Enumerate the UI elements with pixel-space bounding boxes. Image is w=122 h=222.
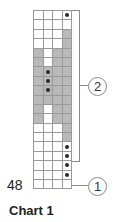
chart-cell xyxy=(53,161,63,170)
dot-icon xyxy=(46,88,50,92)
dot-icon xyxy=(46,79,50,83)
chart-cell xyxy=(63,86,73,95)
chart-cell xyxy=(63,11,73,20)
chart-cell xyxy=(53,49,63,58)
row-number-label: 48 xyxy=(7,177,23,193)
chart-cell xyxy=(34,39,44,48)
chart-cell xyxy=(34,133,44,142)
chart-cell xyxy=(53,180,63,189)
chart-cell xyxy=(53,152,63,161)
chart-cell xyxy=(44,49,54,58)
chart-title: Chart 1 xyxy=(9,203,54,218)
chart-cell xyxy=(44,11,54,20)
chart-cell xyxy=(63,124,73,133)
chart-cell xyxy=(44,180,54,189)
chart-cell xyxy=(44,171,54,180)
callout-1-leader xyxy=(72,185,88,186)
chart-cell xyxy=(44,96,54,105)
chart-cell xyxy=(53,114,63,123)
chart-cell xyxy=(44,105,54,114)
dot-icon xyxy=(65,145,69,149)
chart-cell xyxy=(34,152,44,161)
chart-cell xyxy=(53,86,63,95)
chart-cell xyxy=(34,58,44,67)
chart-cell xyxy=(53,142,63,151)
chart-cell xyxy=(34,86,44,95)
chart-cell xyxy=(44,142,54,151)
chart-cell xyxy=(63,39,73,48)
chart-cell xyxy=(63,58,73,67)
chart-cell xyxy=(44,77,54,86)
chart-cell xyxy=(53,124,63,133)
chart-cell xyxy=(53,105,63,114)
chart-cell xyxy=(63,152,73,161)
chart-cell xyxy=(53,11,63,20)
callout-1-circle: 1 xyxy=(88,177,107,196)
chart-cell xyxy=(34,49,44,58)
chart-cell xyxy=(34,11,44,20)
dot-icon xyxy=(65,13,69,17)
chart-cell xyxy=(53,39,63,48)
chart-cell xyxy=(63,105,73,114)
chart-cell xyxy=(34,96,44,105)
chart-cell xyxy=(44,39,54,48)
chart-cell xyxy=(34,105,44,114)
chart-cell xyxy=(34,30,44,39)
callout-2-label: 2 xyxy=(94,79,101,94)
chart-cell xyxy=(34,171,44,180)
chart-cell xyxy=(44,161,54,170)
chart-cell xyxy=(53,77,63,86)
chart-cell xyxy=(53,171,63,180)
chart-cell xyxy=(34,124,44,133)
chart-cell xyxy=(34,142,44,151)
chart-cell xyxy=(44,133,54,142)
bracket-bottom-line xyxy=(72,161,80,162)
chart-cell xyxy=(53,133,63,142)
chart-cell xyxy=(63,96,73,105)
callout-2-circle: 2 xyxy=(88,77,107,96)
chart-cell xyxy=(44,86,54,95)
chart-cell xyxy=(44,114,54,123)
dot-icon xyxy=(65,173,69,177)
chart-cell xyxy=(63,142,73,151)
chart-cell xyxy=(63,20,73,29)
chart-cell xyxy=(34,77,44,86)
chart-cell xyxy=(53,96,63,105)
chart-cell xyxy=(63,67,73,76)
callout-2-leader xyxy=(79,85,88,86)
chart-cell xyxy=(44,30,54,39)
chart-cell xyxy=(34,161,44,170)
chart-cell xyxy=(63,133,73,142)
chart-cell xyxy=(44,58,54,67)
chart-cell xyxy=(53,67,63,76)
chart-cell xyxy=(53,58,63,67)
dot-icon xyxy=(65,154,69,158)
chart-cell xyxy=(44,152,54,161)
knitting-chart-grid xyxy=(33,10,72,189)
chart-cell xyxy=(44,20,54,29)
chart-cell xyxy=(53,20,63,29)
chart-cell xyxy=(34,114,44,123)
chart-cell xyxy=(63,114,73,123)
callout-1-label: 1 xyxy=(94,179,101,194)
chart-cell xyxy=(63,77,73,86)
chart-cell xyxy=(53,30,63,39)
chart-cell xyxy=(44,67,54,76)
dot-icon xyxy=(65,163,69,167)
chart-cell xyxy=(34,67,44,76)
chart-cell xyxy=(44,124,54,133)
chart-cell xyxy=(63,49,73,58)
chart-cell xyxy=(34,180,44,189)
chart-cell xyxy=(34,20,44,29)
chart-cell xyxy=(63,180,73,189)
chart-cell xyxy=(63,171,73,180)
chart-cell xyxy=(63,161,73,170)
dot-icon xyxy=(46,70,50,74)
chart-cell xyxy=(63,30,73,39)
